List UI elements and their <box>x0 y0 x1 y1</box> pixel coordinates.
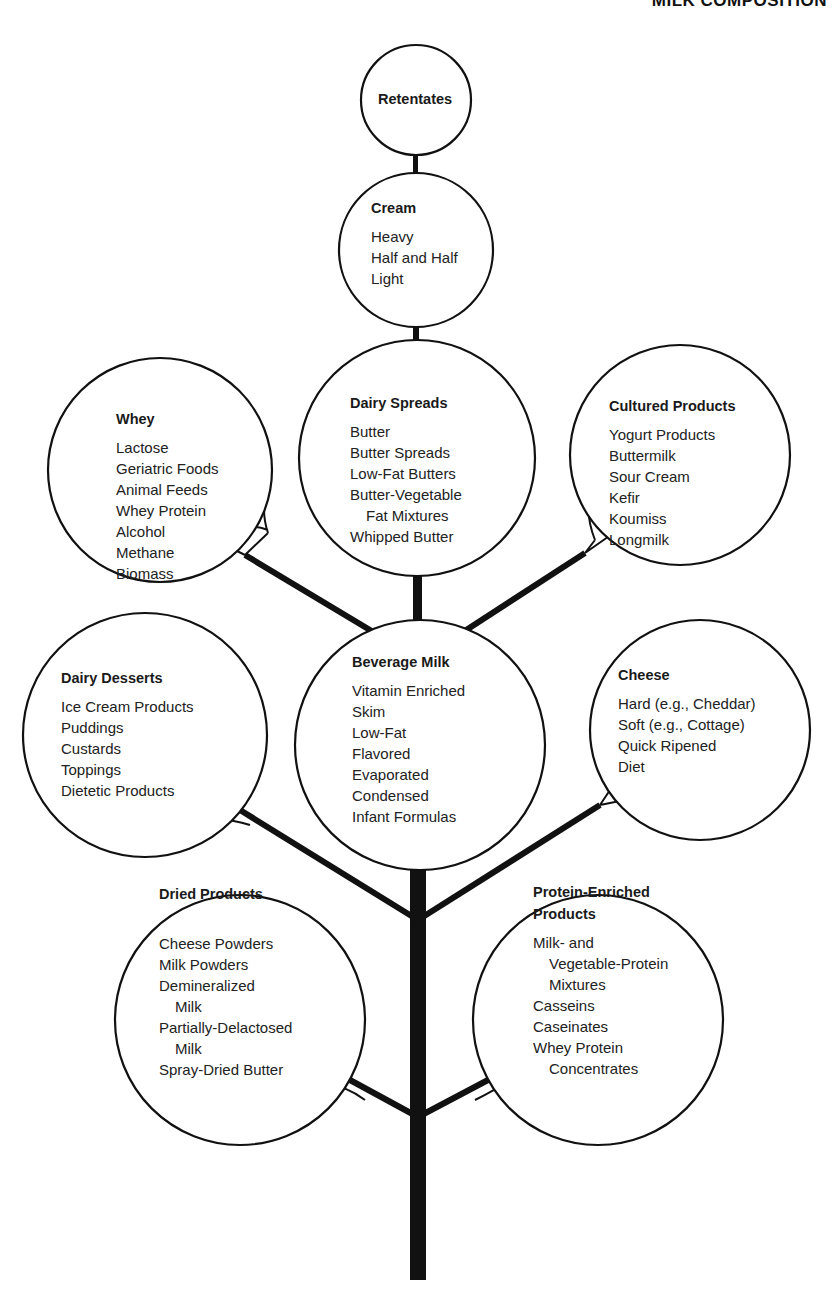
node-item: Whey Protein <box>116 502 206 519</box>
trunk-retentates-to-cream <box>413 154 418 174</box>
node-item: Whipped Butter <box>350 528 453 545</box>
node-item: Low-Fat Butters <box>350 465 456 482</box>
node-item: Condensed <box>352 787 429 804</box>
node-title-line2: Products <box>533 906 596 922</box>
node-item: Soft (e.g., Cottage) <box>618 716 745 733</box>
node-item: Diet <box>618 758 646 775</box>
node-item: Puddings <box>61 719 124 736</box>
node-item: Partially-Delactosed <box>159 1019 292 1036</box>
node-item: Buttermilk <box>609 447 676 464</box>
node-dried-products: Dried ProductsCheese PowdersMilk Powders… <box>115 886 365 1145</box>
node-item: Quick Ripened <box>618 737 716 754</box>
node-item: Casseins <box>533 997 595 1014</box>
node-item: Evaporated <box>352 766 429 783</box>
node-item: Heavy <box>371 228 414 245</box>
node-item: Milk <box>175 998 202 1015</box>
node-item: Longmilk <box>609 531 670 548</box>
node-cultured-products: Cultured ProductsYogurt ProductsButtermi… <box>570 345 790 565</box>
node-item: Dietetic Products <box>61 782 174 799</box>
node-item: Caseinates <box>533 1018 608 1035</box>
node-item: Cheese Powders <box>159 935 273 952</box>
node-item: Mixtures <box>549 976 606 993</box>
node-item: Concentrates <box>549 1060 638 1077</box>
node-cheese: CheeseHard (e.g., Cheddar)Soft (e.g., Co… <box>590 620 810 840</box>
node-item: Vegetable-Protein <box>549 955 668 972</box>
node-retentates: Retentates <box>361 45 471 155</box>
node-item: Geriatric Foods <box>116 460 219 477</box>
node-title: Dairy Spreads <box>350 395 448 411</box>
node-item: Half and Half <box>371 249 459 266</box>
node-item: Whey Protein <box>533 1039 623 1056</box>
node-dairy-desserts: Dairy DessertsIce Cream ProductsPuddings… <box>23 613 267 857</box>
node-title: Protein-Enriched <box>533 884 650 900</box>
node-item: Infant Formulas <box>352 808 456 825</box>
node-item: Milk Powders <box>159 956 248 973</box>
node-item: Butter <box>350 423 390 440</box>
node-whey: WheyLactoseGeriatric FoodsAnimal FeedsWh… <box>48 358 272 582</box>
node-item: Hard (e.g., Cheddar) <box>618 695 756 712</box>
node-title: Beverage Milk <box>352 654 450 670</box>
branch-dried <box>350 1080 418 1117</box>
node-item: Low-Fat <box>352 724 407 741</box>
node-title: Cultured Products <box>609 398 735 414</box>
node-item: Flavored <box>352 745 410 762</box>
node-title: Retentates <box>378 91 452 107</box>
node-circle <box>570 345 790 565</box>
node-item: Yogurt Products <box>609 426 715 443</box>
node-item: Koumiss <box>609 510 667 527</box>
node-item: Kefir <box>609 489 640 506</box>
node-item: Milk- and <box>533 934 594 951</box>
node-protein-enriched-products: Protein-EnrichedProductsMilk- andVegetab… <box>473 884 723 1145</box>
node-dairy-spreads: Dairy SpreadsButterButter SpreadsLow-Fat… <box>299 340 535 576</box>
node-item: Butter-Vegetable <box>350 486 462 503</box>
node-cream: CreamHeavyHalf and HalfLight <box>339 173 493 327</box>
node-item: Custards <box>61 740 121 757</box>
node-item: Alcohol <box>116 523 165 540</box>
node-title: Cheese <box>618 667 670 683</box>
node-item: Methane <box>116 544 174 561</box>
node-item: Butter Spreads <box>350 444 450 461</box>
node-title: Whey <box>116 411 155 427</box>
node-circle <box>23 613 267 857</box>
node-title: Dried Products <box>159 886 263 902</box>
node-title: Cream <box>371 200 416 216</box>
node-item: Light <box>371 270 404 287</box>
node-item: Ice Cream Products <box>61 698 194 715</box>
node-item: Milk <box>175 1040 202 1057</box>
node-item: Biomass <box>116 565 174 582</box>
node-item: Toppings <box>61 761 121 778</box>
node-item: Animal Feeds <box>116 481 208 498</box>
node-beverage-milk: Beverage MilkVitamin EnrichedSkimLow-Fat… <box>295 620 545 870</box>
node-item: Vitamin Enriched <box>352 682 465 699</box>
node-item: Sour Cream <box>609 468 690 485</box>
node-item: Demineralized <box>159 977 255 994</box>
milk-products-tree-diagram: RetentatesCreamHeavyHalf and HalfLightDa… <box>0 0 833 1297</box>
node-item: Fat Mixtures <box>366 507 449 524</box>
node-item: Skim <box>352 703 385 720</box>
node-item: Lactose <box>116 439 169 456</box>
node-item: Spray-Dried Butter <box>159 1061 283 1078</box>
node-title: Dairy Desserts <box>61 670 163 686</box>
